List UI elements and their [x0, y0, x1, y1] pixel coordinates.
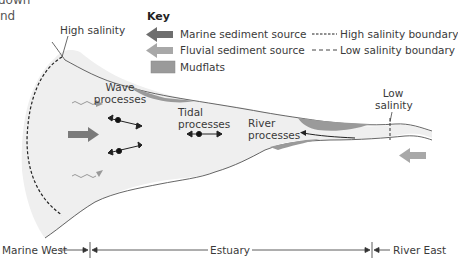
- key-title: Key: [147, 10, 170, 23]
- key-label-mudflats: Mudflats: [180, 61, 225, 73]
- key-label-fluvial: Fluvial sediment source: [180, 44, 305, 56]
- tidal-processes-label-line1: Tidal: [178, 106, 203, 118]
- key-marine-arrow-symbol: [146, 27, 173, 42]
- wave-processes-label-line1: Wave: [90, 81, 150, 93]
- key-label-marine: Marine sediment source: [180, 28, 306, 40]
- low-salinity-pointer: [390, 112, 392, 122]
- river-processes-label-line2: processes: [248, 129, 300, 141]
- fluvial-sediment-arrow: [399, 148, 426, 163]
- scale-label-marine-west: Marine West: [2, 244, 67, 256]
- key-mudflats-swatch: [151, 61, 175, 73]
- scale-label-estuary: Estuary: [208, 244, 252, 256]
- high-salinity-label: High salinity: [60, 24, 125, 36]
- wave-processes-label-line2: processes: [90, 93, 150, 105]
- tidal-processes-label-line2: processes: [178, 118, 230, 130]
- river-processes-label-line1: River: [248, 117, 275, 129]
- clipped-text-line-1: down: [0, 0, 30, 6]
- key-label-low-salinity: Low salinity boundary: [340, 44, 455, 56]
- key-fluvial-arrow-symbol: [146, 43, 173, 58]
- low-salinity-label-line2: salinity: [375, 99, 413, 111]
- key-label-high-salinity: High salinity boundary: [340, 28, 458, 40]
- low-salinity-label-line1: Low: [380, 87, 406, 99]
- clipped-text-line-2: nd: [0, 10, 15, 22]
- scale-label-river-east: River East: [393, 244, 446, 256]
